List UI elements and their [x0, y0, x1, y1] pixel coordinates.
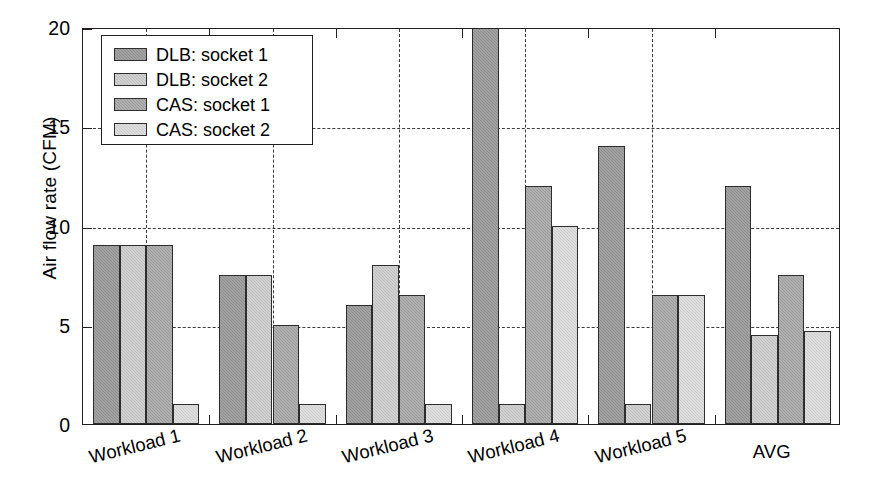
legend-label: DLB: socket 2 [156, 71, 268, 89]
legend-swatch-icon [114, 98, 147, 111]
legend-label: CAS: socket 1 [156, 96, 270, 114]
x-tick-label: Workload 2 [214, 424, 310, 468]
chart-figure: Air flow rate (CFM) 05101520 DLB: socket… [0, 0, 876, 493]
legend-swatch-icon [114, 123, 147, 136]
x-tick-label: Workload 4 [466, 424, 562, 468]
x-tick-label: Workload 3 [340, 424, 436, 468]
legend-swatch-icon [114, 73, 147, 86]
chart-legend: DLB: socket 1 DLB: socket 2 CAS: socket … [101, 35, 313, 145]
legend-label: DLB: socket 1 [156, 46, 268, 64]
legend-label: CAS: socket 2 [156, 121, 270, 139]
legend-item: DLB: socket 1 [102, 42, 312, 67]
legend-swatch-icon [114, 48, 147, 61]
legend-item: CAS: socket 1 [102, 92, 312, 117]
legend-item: CAS: socket 2 [102, 117, 312, 142]
x-tick-label: Workload 5 [593, 424, 689, 468]
legend-item: DLB: socket 2 [102, 67, 312, 92]
x-tick-label: Workload 1 [87, 424, 183, 468]
x-tick-label: AVG [753, 441, 791, 463]
